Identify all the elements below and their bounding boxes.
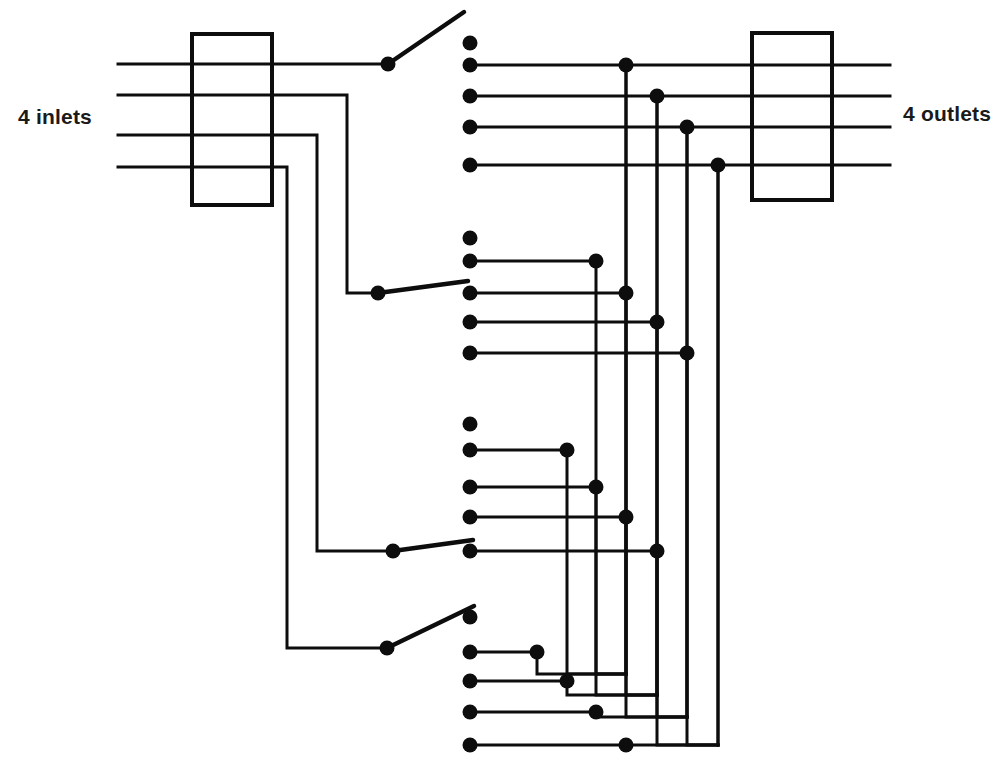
inlet-terminal-box [192, 34, 272, 205]
switch-group-2-contact-dot-1 [463, 254, 478, 269]
switch-group-3-rest-contact-dot [463, 417, 478, 432]
switch-group-3-junction-dot-1 [560, 443, 575, 458]
switch-group-4-riser-2 [567, 681, 657, 695]
switch-group-3-contact-dot-3 [463, 510, 478, 525]
switch-group-2-contact-dot-3 [463, 315, 478, 330]
switch-group-2-junction-dot-1 [589, 254, 604, 269]
switch-group-2-pivot-dot [371, 286, 386, 301]
switch-group-1-junction-dot-2 [650, 89, 665, 104]
switch-group-2-riser-3 [657, 322, 687, 717]
switch-group-3-junction-dot-3 [619, 510, 634, 525]
switch-group-4-junction-dot-1 [530, 645, 545, 660]
switch-group-1-junction-dot-4 [711, 158, 726, 173]
bus-wires-layer [626, 65, 718, 745]
switch-group-1-contact-dot-4 [463, 158, 478, 173]
contact-wires-layer [470, 65, 718, 745]
inlet-wire-2 [118, 95, 378, 293]
switch-group-4-junction-dot-2 [560, 674, 575, 689]
switch-group-3-junction-dot-4 [650, 544, 665, 559]
switch-group-4-riser-3 [596, 712, 687, 717]
switch-group-1-pivot-dot [381, 57, 396, 72]
switch-group-1-blade[interactable] [388, 12, 464, 64]
switch-group-4-riser-1 [537, 652, 626, 674]
switch-group-3-contact-dot-2 [463, 480, 478, 495]
switch-group-2-contact-dot-4 [463, 346, 478, 361]
switch-group-2-contact-dot-2 [463, 286, 478, 301]
switch-group-4-rest-contact-dot [463, 610, 478, 625]
switch-group-2-blade[interactable] [378, 281, 468, 293]
contact-dots-layer [371, 36, 726, 753]
switch-group-4-junction-dot-4 [619, 738, 634, 753]
switch-group-2-junction-dot-3 [650, 315, 665, 330]
switch-group-2-riser-4 [687, 353, 718, 745]
inlet-wires-layer [118, 64, 393, 648]
switch-group-4-junction-dot-3 [589, 705, 604, 720]
switch-group-4-contact-dot-2 [463, 674, 478, 689]
outlet-terminal-box [752, 33, 832, 200]
switch-group-3-contact-dot-1 [463, 443, 478, 458]
switch-group-1-contact-dot-1 [463, 58, 478, 73]
switch-group-4-blade[interactable] [387, 606, 474, 648]
switch-group-4-contact-dot-3 [463, 705, 478, 720]
inlet-wire-3 [118, 135, 393, 551]
crossbar-switch-diagram: 4 inlets 4 outlets [0, 0, 1005, 769]
switch-group-3-pivot-dot [386, 544, 401, 559]
switch-group-1-junction-dot-3 [680, 120, 695, 135]
schematic-canvas [0, 0, 1005, 769]
switch-group-2-junction-dot-4 [680, 346, 695, 361]
switch-group-1-rest-contact-dot [463, 36, 478, 51]
switch-group-3-contact-dot-4 [463, 544, 478, 559]
switch-group-2-junction-dot-2 [619, 286, 634, 301]
outlets-label: 4 outlets [903, 102, 991, 126]
switch-group-1-junction-dot-1 [619, 58, 634, 73]
switch-group-4-pivot-dot [380, 641, 395, 656]
inlets-label: 4 inlets [18, 105, 92, 129]
switch-group-3-junction-dot-2 [589, 480, 604, 495]
outlet-wires-layer [626, 65, 890, 165]
switch-group-2-rest-contact-dot [463, 231, 478, 246]
switch-group-4-contact-dot-4 [463, 738, 478, 753]
switch-group-1-contact-dot-2 [463, 89, 478, 104]
switch-group-4-contact-dot-1 [463, 645, 478, 660]
switch-group-3-blade[interactable] [393, 540, 473, 551]
switch-group-1-contact-dot-3 [463, 120, 478, 135]
